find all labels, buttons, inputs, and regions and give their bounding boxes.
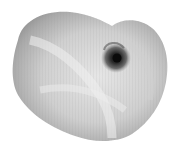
shell-image xyxy=(0,0,175,147)
shell-illustration xyxy=(0,0,175,147)
